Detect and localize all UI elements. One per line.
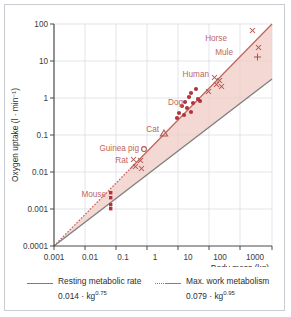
- legend-resting-exponent: 0.75: [95, 290, 107, 296]
- marker-guinea-pig: [142, 147, 147, 152]
- legend-work-equation: 0.079 · kg0.95: [186, 288, 269, 302]
- y-tick-label-1: 1: [43, 94, 48, 103]
- x-tick-label-0.01: 0.01: [82, 253, 98, 262]
- figure-card: Horse Mule Human Dog Cat Guinea pig Rat …: [4, 4, 285, 311]
- y-tick-label-100: 100: [34, 20, 48, 29]
- x-tick-label-1000: 1000: [246, 253, 265, 262]
- work-line-swatch: [155, 279, 181, 288]
- legend-resting-label: Resting metabolic rate: [58, 276, 141, 286]
- x-tick-label-100: 100: [213, 253, 227, 262]
- annotation-mouse: Mouse: [81, 190, 106, 199]
- annotation-dog: Dog: [168, 98, 183, 107]
- y-tick-label-10: 10: [39, 57, 49, 66]
- legend-item-resting: Resting metabolic rate 0.014 · kg0.75: [27, 276, 141, 302]
- legend-resting-text: Resting metabolic rate 0.014 · kg0.75: [58, 276, 141, 302]
- x-tick-label-10: 10: [183, 253, 193, 262]
- x-tick-label-0.1: 0.1: [117, 253, 129, 262]
- x-tick-label-0.001: 0.001: [44, 253, 65, 262]
- y-axis-ticks: 100 10 1 0.1 0.01 0.001 0.0001: [23, 20, 54, 251]
- annotation-horse: Horse: [205, 34, 227, 43]
- y-tick-label-0.1: 0.1: [37, 131, 49, 140]
- y-tick-label-0.01: 0.01: [32, 168, 48, 177]
- resting-line-swatch: [27, 279, 53, 288]
- y-tick-label-0.001: 0.001: [28, 205, 49, 214]
- metabolism-scatter-plot: Horse Mule Human Dog Cat Guinea pig Rat …: [5, 5, 286, 267]
- legend-work-exponent: 0.95: [223, 290, 235, 296]
- legend-work-text: Max. work metabolism 0.079 · kg0.95: [186, 276, 269, 302]
- annotation-guinea-pig: Guinea pig: [99, 144, 139, 153]
- legend-resting-equation: 0.014 · kg0.75: [58, 288, 141, 302]
- legend-item-work: Max. work metabolism 0.079 · kg0.95: [155, 276, 269, 302]
- annotation-human: Human: [183, 70, 210, 79]
- y-tick-label-0.0001: 0.0001: [23, 242, 48, 251]
- annotation-rat: Rat: [115, 156, 128, 165]
- marker-horse: [250, 28, 255, 33]
- annotation-mule: Mule: [215, 48, 233, 57]
- max-work-metabolism-line-solid: [130, 24, 272, 169]
- annotation-cat: Cat: [146, 125, 159, 134]
- resting-metabolic-rate-line: [54, 79, 272, 246]
- chart-legend: Resting metabolic rate 0.014 · kg0.75 Ma…: [5, 267, 286, 312]
- plot-area: Horse Mule Human Dog Cat Guinea pig Rat …: [5, 5, 286, 267]
- x-tick-label-1: 1: [153, 253, 158, 262]
- x-axis-ticks: 0.001 0.01 0.1 1 10 100 1000: [44, 246, 272, 262]
- y-axis-title: Oxygen uptake (l · min⁻¹): [10, 88, 20, 182]
- legend-work-label: Max. work metabolism: [186, 276, 269, 286]
